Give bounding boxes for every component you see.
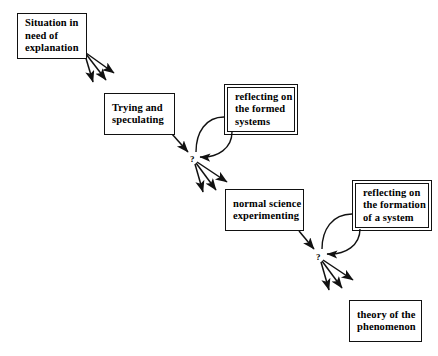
theory-node-line-2: phenomenon	[357, 321, 415, 334]
trying-node-line-2: speculating	[112, 114, 168, 127]
situation-node[interactable]: Situation in need of explanation	[17, 13, 87, 59]
junction-2-to-theory-fan	[321, 260, 353, 290]
situation-node-line-1: Situation in	[25, 17, 80, 30]
reflecting-formation-node-line-2: the formation	[363, 199, 422, 212]
situation-to-trying-fan	[85, 53, 114, 82]
trying-to-junction-1-arrow	[172, 134, 188, 152]
junction-1-to-normal-science-fan	[195, 162, 227, 192]
theory-node[interactable]: theory of the phenomenon	[349, 300, 422, 342]
normal-science-node-line-1: normal science	[233, 198, 297, 211]
trying-node-line-1: Trying and	[112, 102, 168, 115]
normal-science-to-junction-2-arrow	[299, 231, 314, 249]
reflecting-formed-systems-node-line-2: the formed	[235, 103, 288, 116]
diagram-canvas: Situation in need of explanation Trying …	[0, 0, 438, 356]
question-mark-2: ?	[316, 253, 321, 262]
reflecting-formed-systems-node-line-1: reflecting on	[235, 91, 288, 104]
reflecting-formation-node[interactable]: reflecting on the formation of a system	[355, 183, 429, 228]
reflecting-formation-node-line-3: of a system	[363, 212, 422, 225]
situation-node-line-3: explanation	[25, 42, 80, 55]
theory-node-line-1: theory of the	[357, 309, 415, 322]
reflecting-formation-node-line-1: reflecting on	[363, 187, 422, 200]
reflecting-formed-systems-node[interactable]: reflecting on the formed systems	[227, 87, 295, 132]
question-mark-1: ?	[190, 155, 195, 164]
normal-science-node[interactable]: normal science experimenting	[225, 189, 304, 231]
reflecting-formed-systems-node-line-3: systems	[235, 116, 288, 129]
trying-node[interactable]: Trying and speculating	[104, 93, 175, 135]
situation-node-line-2: need of	[25, 30, 80, 43]
normal-science-node-line-2: experimenting	[233, 210, 297, 223]
